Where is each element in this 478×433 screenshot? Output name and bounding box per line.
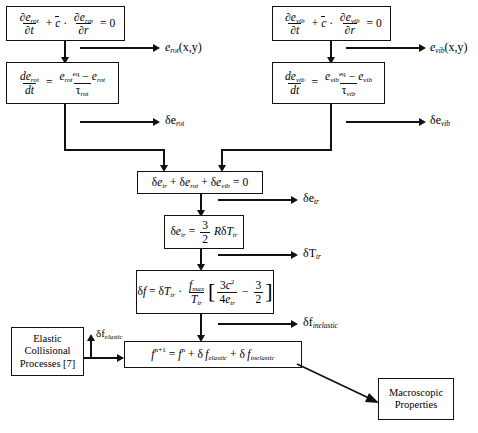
box-vib-transport: ∂evib ∂t + c · ∂evib ∂r =0: [272, 6, 391, 41]
output-arrow-delta-e-tr: [291, 196, 298, 204]
output-line-delta-e-rot: [80, 121, 154, 123]
output-arrow-delta-f-inelastic: [291, 320, 298, 328]
connector-fupdate-to-macroscopic: [295, 360, 385, 408]
output-label-delta-T-tr: δTtr: [303, 246, 321, 261]
connector-vib-relax-down: [330, 104, 332, 150]
macroscopic-line-1: Macroscopic: [389, 387, 443, 399]
output-line-e-vib-xy: [346, 47, 420, 49]
arrow-delta-f-elastic: [87, 334, 95, 341]
output-label-delta-f-elastic: δfelastic: [96, 327, 123, 339]
connector-delta-f-elastic-tick: [90, 340, 92, 358]
output-line-delta-T-tr: [218, 254, 292, 256]
output-label-e-rot-xy: erot(x,y): [165, 40, 202, 55]
formula-delta-f: δf = δTtr · fmax Ttr [ 3c2 4etr − 3 2 ]: [137, 279, 272, 305]
elastic-line-3: Processes [7]: [20, 358, 76, 370]
output-label-delta-e-rot: δerot: [165, 113, 184, 128]
output-arrow-e-rot-xy: [153, 44, 160, 52]
elastic-line-2: Collisional: [24, 345, 70, 357]
flowchart-canvas: ∂erot ∂t + c · ∂erot ∂r =0 erot(x,y) der…: [0, 0, 478, 433]
output-arrow-delta-e-vib: [419, 118, 426, 126]
elbow-vib-to-balance: [221, 149, 332, 151]
output-label-delta-f-inelastic: δfinelastic: [303, 315, 338, 330]
box-f-update: fn+1 = fn + δ felastic + δ finelastic: [124, 341, 302, 368]
formula-energy-balance: δetr + δerot + δevib =0: [152, 176, 248, 189]
formula-f-update: fn+1 = fn + δ felastic + δ finelastic: [151, 348, 274, 361]
output-line-delta-e-vib: [346, 121, 420, 123]
output-line-delta-e-tr: [218, 199, 292, 201]
elbow-rot-to-balance: [64, 149, 165, 151]
box-elastic-collisional: Elastic Collisional Processes [7]: [11, 327, 84, 376]
box-rot-relax: derot dt = eroteq−erot τrot: [6, 62, 119, 104]
output-arrow-e-vib-xy: [419, 44, 426, 52]
output-label-delta-e-vib: δevib: [430, 113, 450, 128]
box-energy-balance: δetr + δerot + δevib =0: [137, 171, 263, 194]
box-vib-relax: devib dt = evibeq−evib τvib: [272, 62, 385, 104]
output-arrow-delta-T-tr: [291, 251, 298, 259]
macroscopic-line-2: Properties: [395, 399, 438, 411]
box-tr-energy: δetr = 3 2 RδTtr: [164, 215, 244, 249]
formula-vib-transport: ∂evib ∂t + c · ∂evib ∂r =0: [281, 11, 382, 37]
formula-tr-energy: δetr = 3 2 RδTtr: [170, 219, 237, 244]
output-line-delta-f-inelastic: [218, 323, 292, 325]
box-macroscopic-properties: Macroscopic Properties: [378, 378, 454, 420]
output-label-delta-e-tr: δetr: [303, 191, 319, 206]
box-delta-f: δf = δTtr · fmax Ttr [ 3c2 4etr − 3 2 ]: [136, 270, 274, 314]
arrow-elastic-into-fupdate: [117, 354, 124, 362]
formula-vib-relax: devib dt = evibeq−evib τvib: [281, 70, 376, 96]
connector-rot-relax-down: [64, 104, 66, 150]
elastic-line-1: Elastic: [33, 333, 62, 345]
formula-rot-transport: ∂erot ∂t + c · ∂erot ∂r =0: [16, 11, 115, 37]
output-label-e-vib-xy: evib(x,y): [430, 40, 467, 55]
box-rot-transport: ∂erot ∂t + c · ∂erot ∂r =0: [6, 6, 125, 41]
output-line-e-rot-xy: [80, 47, 154, 49]
output-arrow-delta-e-rot: [153, 118, 160, 126]
formula-rot-relax: derot dt = eroteq−erot τrot: [16, 70, 109, 96]
